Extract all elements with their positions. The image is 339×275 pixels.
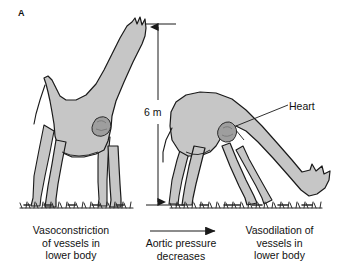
caption-mid-line-2: decreases — [140, 250, 222, 263]
caption-right-line-2: vessels in — [222, 237, 337, 250]
caption-left-line-3: lower body — [6, 249, 136, 262]
caption-left-line-1: Vasoconstriction — [6, 224, 136, 237]
caption-left-line-2: of vessels in — [6, 237, 136, 250]
caption-mid-line-1: Aortic pressure — [140, 237, 222, 250]
height-measurement-label: 6 m — [144, 106, 162, 118]
heart-annotation-label: Heart — [289, 100, 315, 112]
figure-panel-a: A — [0, 0, 339, 275]
caption-right-line-3: lower body — [222, 249, 337, 262]
caption-right-line-1: Vasodilation of — [222, 224, 337, 237]
caption-aortic-pressure: Aortic pressure decreases — [140, 237, 222, 262]
caption-vasoconstriction: Vasoconstriction of vessels in lower bod… — [6, 224, 136, 262]
giraffe-standing — [31, 17, 146, 207]
caption-vasodilation: Vasodilation of vessels in lower body — [222, 224, 337, 262]
